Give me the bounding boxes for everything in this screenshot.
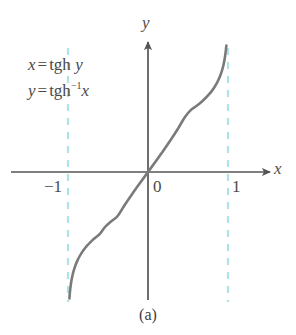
equation-2-equals: = [36, 81, 50, 100]
plot-canvas [0, 0, 296, 335]
equation-2-function: tgh [49, 81, 71, 100]
equation-1-function: tgh [49, 55, 71, 74]
equation-2-lhs: y [28, 81, 36, 100]
equation-y-artgh-x: y=tgh−1x [28, 78, 89, 104]
y-axis-label: y [142, 14, 150, 31]
equation-1-argument: y [75, 55, 83, 74]
figure-container: x=tgh y y=tgh−1x y x 0 −1 1 (a) [0, 0, 296, 335]
equation-2-argument: x [82, 81, 90, 100]
equation-x-tgh-y: x=tgh y [28, 52, 89, 78]
x-tick-label-one: 1 [232, 178, 241, 195]
x-axis-label: x [274, 160, 282, 177]
figure-caption: (a) [0, 306, 296, 324]
origin-label: 0 [153, 178, 162, 195]
equation-1-equals: = [36, 55, 50, 74]
equation-annotations: x=tgh y y=tgh−1x [28, 52, 89, 104]
x-tick-label-negative-one: −1 [44, 178, 62, 195]
equation-2-exponent: −1 [71, 80, 82, 91]
equation-1-lhs: x [28, 55, 36, 74]
